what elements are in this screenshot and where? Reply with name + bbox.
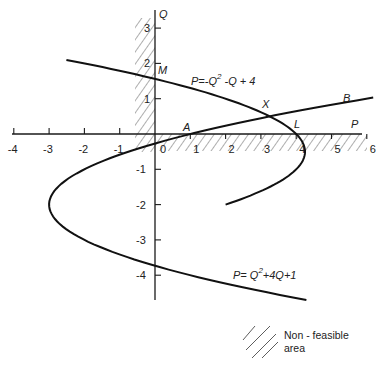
feasibility-diagram: -4-3-2-1123456321-1-2-3-4 Q P 0 P=-Q2 -Q… bbox=[0, 0, 379, 369]
legend-label-line-2: area bbox=[284, 342, 305, 354]
curve-p-eq-q2-plus-4q-plus-1 bbox=[49, 98, 373, 300]
point-label-l: L bbox=[294, 118, 300, 130]
axis-tick-labels: -4-3-2-1123456321-1-2-3-4 bbox=[8, 22, 376, 281]
point-label-m: M bbox=[158, 64, 168, 76]
svg-text:1: 1 bbox=[144, 93, 150, 105]
point-label-x: X bbox=[261, 98, 270, 110]
equation-label-curve-2: P= Q2+4Q+1 bbox=[233, 266, 296, 281]
q-axis-label: Q bbox=[159, 8, 168, 20]
svg-text:2: 2 bbox=[229, 143, 235, 155]
legend: Non - feasible area bbox=[243, 326, 349, 358]
origin-label: 0 bbox=[160, 143, 166, 155]
p-axis-label: P bbox=[351, 118, 359, 130]
svg-text:5: 5 bbox=[335, 143, 341, 155]
svg-text:-3: -3 bbox=[43, 143, 53, 155]
svg-text:3: 3 bbox=[144, 22, 150, 34]
axis-ticks bbox=[14, 28, 367, 275]
non-feasible-area-left bbox=[135, 18, 155, 152]
svg-text:-2: -2 bbox=[136, 199, 146, 211]
svg-text:-3: -3 bbox=[136, 234, 146, 246]
svg-text:-4: -4 bbox=[136, 269, 146, 281]
legend-hatch-swatch bbox=[243, 326, 278, 358]
point-label-a: A bbox=[182, 121, 190, 133]
point-label-b: B bbox=[343, 92, 350, 104]
svg-text:1: 1 bbox=[193, 143, 199, 155]
svg-text:3: 3 bbox=[264, 143, 270, 155]
svg-text:-4: -4 bbox=[8, 143, 18, 155]
svg-text:-2: -2 bbox=[78, 143, 88, 155]
svg-text:2: 2 bbox=[144, 57, 150, 69]
svg-text:6: 6 bbox=[370, 143, 376, 155]
legend-label-line-1: Non - feasible bbox=[284, 329, 349, 341]
svg-text:-1: -1 bbox=[136, 163, 146, 175]
equation-label-curve-1: P=-Q2 -Q + 4 bbox=[191, 72, 255, 87]
